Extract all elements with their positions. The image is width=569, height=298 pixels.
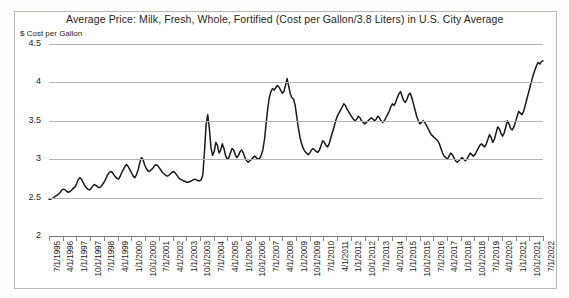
x-tick-7-1-2013: 7/1/2013	[382, 241, 391, 272]
x-tick-7-1-2022: 7/1/2022	[547, 241, 556, 272]
x-tick-7-1-2004: 7/1/2004	[217, 241, 226, 272]
y-tick-2: 2	[36, 231, 41, 240]
x-tick-1-1-2021: 1/1/2021	[519, 241, 528, 272]
y-axis-tick-labels: 4.543.532.52	[0, 44, 45, 236]
x-tick-4-1-2005: 4/1/2005	[231, 241, 240, 272]
x-tick-10-1-2006: 10/1/2006	[258, 241, 267, 277]
x-tick-1-1-2000: 1/1/2000	[135, 241, 144, 272]
x-tick-mark	[543, 236, 544, 241]
x-tick-4-1-2008: 4/1/2008	[286, 241, 295, 272]
y-tick-4.5: 4.5	[28, 39, 41, 48]
x-tick-10-1-2015: 10/1/2015	[423, 241, 432, 277]
x-tick-4-1-2011: 4/1/2011	[341, 241, 350, 271]
x-tick-1-1-2006: 1/1/2006	[245, 241, 254, 272]
x-tick-7-1-1995: 7/1/1995	[53, 241, 62, 272]
x-tick-10-1-2012: 10/1/2012	[368, 241, 377, 277]
x-tick-7-1-1998: 7/1/1998	[107, 241, 116, 272]
x-tick-10-1-2009: 10/1/2009	[313, 241, 322, 277]
y-tick-3.5: 3.5	[28, 116, 41, 125]
x-tick-1-1-2015: 1/1/2015	[409, 241, 418, 272]
gridline-4.5	[49, 44, 543, 45]
y-tick-3: 3	[36, 154, 41, 163]
gridline-3.5	[49, 121, 543, 122]
x-tick-10-1-2003: 10/1/2003	[203, 241, 212, 277]
gridline-3	[49, 159, 543, 160]
x-tick-4-1-2017: 4/1/2017	[450, 241, 459, 272]
x-tick-1-1-2012: 1/1/2012	[354, 241, 363, 272]
y-tick-2.5: 2.5	[28, 193, 41, 202]
x-tick-1-1-2018: 1/1/2018	[464, 241, 473, 272]
x-tick-7-1-2016: 7/1/2016	[437, 241, 446, 272]
plot-area	[49, 44, 543, 236]
x-axis-tick-labels: 7/1/19954/1/19961/1/199710/1/19977/1/199…	[49, 241, 543, 293]
x-tick-10-1-2021: 10/1/2021	[533, 241, 542, 277]
x-tick-4-1-2002: 4/1/2002	[176, 241, 185, 272]
x-tick-7-1-2007: 7/1/2007	[272, 241, 281, 272]
gridline-2.5	[49, 198, 543, 199]
gridline-4	[49, 82, 543, 83]
x-tick-7-1-2001: 7/1/2001	[162, 241, 171, 272]
x-tick-7-1-2019: 7/1/2019	[492, 241, 501, 272]
x-tick-7-1-2010: 7/1/2010	[327, 241, 336, 272]
chart-title: Average Price: Milk, Fresh, Whole, Forti…	[66, 13, 546, 26]
x-tick-10-1-2000: 10/1/2000	[149, 241, 158, 277]
x-tick-1-1-2003: 1/1/2003	[190, 241, 199, 272]
x-tick-1-1-2009: 1/1/2009	[300, 241, 309, 272]
line-series	[49, 44, 543, 236]
x-tick-4-1-2020: 4/1/2020	[505, 241, 514, 272]
chart-container: Average Price: Milk, Fresh, Whole, Forti…	[0, 0, 569, 298]
x-tick-10-1-2018: 10/1/2018	[478, 241, 487, 277]
y-tick-4: 4	[36, 77, 41, 86]
x-tick-4-1-1999: 4/1/1999	[121, 241, 130, 272]
x-tick-1-1-1997: 1/1/1997	[80, 241, 89, 272]
x-tick-10-1-1997: 10/1/1997	[94, 241, 103, 277]
x-tick-4-1-1996: 4/1/1996	[66, 241, 75, 272]
x-tick-4-1-2014: 4/1/2014	[396, 241, 405, 272]
